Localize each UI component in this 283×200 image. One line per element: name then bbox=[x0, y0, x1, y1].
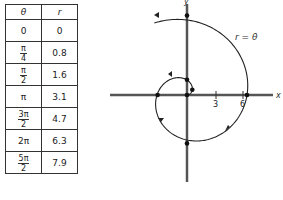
arrow-icon bbox=[158, 118, 164, 122]
tick-label-3: 3 bbox=[213, 100, 218, 109]
y-axis-label: y bbox=[183, 0, 189, 6]
point-theta-2pi bbox=[245, 93, 250, 98]
x-axis-label: x bbox=[275, 91, 281, 100]
spiral-curve bbox=[154, 19, 247, 141]
point-theta-pi bbox=[155, 93, 160, 98]
spiral-graph: x y 3 6 r = θ bbox=[0, 0, 283, 200]
point-theta-0 bbox=[185, 93, 190, 98]
curve-label: r = θ bbox=[235, 32, 258, 42]
point-theta-5pi2 bbox=[185, 13, 190, 18]
point-theta-3pi2 bbox=[185, 141, 190, 146]
point-theta-pi4 bbox=[190, 87, 195, 92]
arrow-icon bbox=[168, 71, 172, 77]
point-theta-pi2 bbox=[185, 78, 190, 83]
arrow-icon bbox=[154, 12, 159, 18]
